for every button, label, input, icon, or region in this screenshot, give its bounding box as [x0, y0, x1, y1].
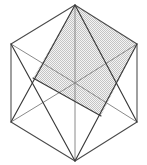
geometry-figure	[0, 0, 147, 165]
cube-cross-section-svg	[0, 0, 147, 165]
